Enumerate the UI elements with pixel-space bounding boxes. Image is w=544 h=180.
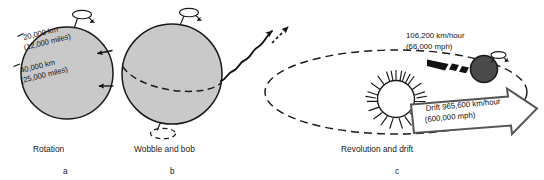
panel-c-caption: Revolution and drift (341, 144, 414, 154)
panel-b-letter: b (170, 167, 175, 176)
rotation-axis-loop-a (73, 10, 92, 27)
panel-b-caption: Wobble and bob (134, 144, 195, 154)
panel-c-letter: c (395, 167, 399, 176)
panel-a-letter: a (63, 167, 68, 176)
bob-wavy-arrow (221, 31, 272, 81)
panel-c-revolution-and-drift: 106,200 km/hour (66,000 mph) Drift 965,6… (265, 31, 537, 176)
diagram-canvas: 20,000 km (12,000 miles) 40,000 km (25,0… (0, 0, 544, 180)
earth-motions-diagram: 20,000 km (12,000 miles) 40,000 km (25,0… (0, 0, 544, 180)
panel-a-caption: Rotation (33, 144, 65, 154)
bob-straight-arrow (272, 27, 288, 43)
panel-b-wobble-and-bob: Wobble and bob b (122, 8, 288, 176)
wobble-ellipse (151, 128, 176, 138)
orbital-direction-arrow (427, 60, 469, 74)
orbit-speed-line2: (66,000 mph) (406, 42, 453, 51)
earth-sphere-b (122, 24, 222, 124)
orbit-speed-line1: 106,200 km/hour (406, 31, 465, 40)
rotation-axis-loop-b (180, 8, 199, 24)
panel-a-rotation: 20,000 km (12,000 miles) 40,000 km (25,0… (14, 10, 114, 176)
